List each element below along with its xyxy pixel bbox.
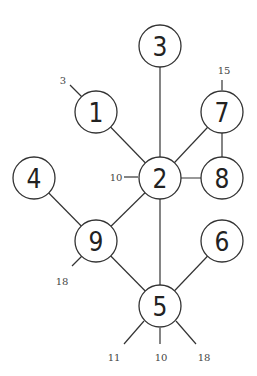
graph-diagram: 3151018111018 123456789	[0, 0, 257, 376]
node-5: 5	[139, 285, 181, 327]
stub-line-node-9	[72, 256, 82, 266]
node-8: 8	[201, 157, 243, 199]
stub-line-node-1	[70, 85, 82, 97]
stub-label: 15	[218, 65, 231, 76]
node-9: 9	[75, 220, 117, 262]
node-6: 6	[201, 220, 243, 262]
node-label: 9	[89, 227, 104, 257]
stub-label: 3	[60, 75, 66, 86]
node-label: 7	[215, 98, 230, 128]
nodes-layer: 123456789	[13, 25, 243, 327]
stub-label: 11	[108, 352, 121, 363]
stub-label: 10	[110, 172, 123, 183]
stub-label: 18	[56, 276, 69, 287]
node-label: 5	[153, 292, 168, 322]
node-4: 4	[13, 157, 55, 199]
node-label: 1	[89, 98, 104, 128]
node-label: 3	[153, 32, 168, 62]
node-label: 2	[153, 164, 168, 194]
node-label: 8	[215, 164, 230, 194]
stub-label: 10	[155, 352, 168, 363]
node-3: 3	[139, 25, 181, 67]
node-2: 2	[139, 157, 181, 199]
node-label: 6	[215, 227, 230, 257]
node-1: 1	[75, 91, 117, 133]
stub-line-node-5	[176, 321, 196, 344]
node-7: 7	[201, 91, 243, 133]
stub-line-node-5	[124, 321, 144, 344]
stub-label: 18	[198, 352, 211, 363]
node-label: 4	[27, 164, 42, 194]
